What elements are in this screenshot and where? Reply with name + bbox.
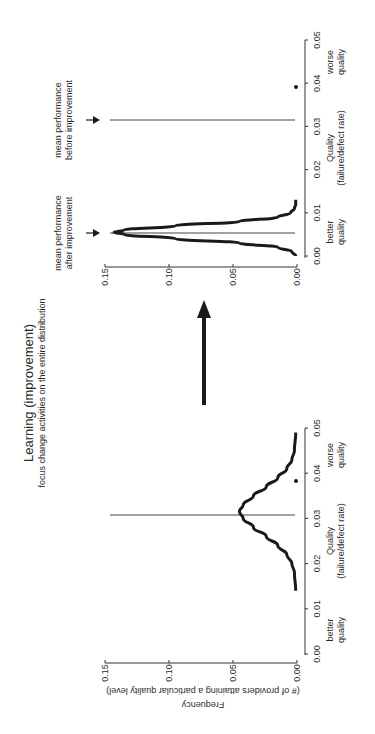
figure-subtitle: focus change activities on the entire di…	[37, 298, 47, 487]
quality-tick-label: 0.04	[312, 74, 322, 92]
frequency-tick-label: 0.00	[292, 268, 302, 286]
arrow-before-icon	[86, 116, 100, 124]
frequency-tick-label: 0.05	[228, 664, 238, 682]
frequency-tick-label: 0.10	[164, 268, 174, 286]
frequency-tick-label: 0.15	[100, 664, 110, 682]
arrow-after-icon	[86, 229, 100, 237]
frequency-axis-title-1: Frequency	[181, 700, 224, 710]
learning-improvement-figure: Learning (improvement) focus change acti…	[0, 0, 375, 734]
label-mean-before-1: mean performance	[53, 82, 63, 158]
quality-tick-label: 0.04	[312, 464, 322, 482]
label-mean-after-1: mean performance	[53, 195, 63, 271]
quality-tick-label: 0.02	[312, 555, 322, 573]
frequency-tick-label: 0.15	[100, 268, 110, 286]
quality-axis-title-1: Quality	[325, 133, 335, 162]
better-quality-label-2: quality	[336, 218, 346, 245]
worse-quality-label-1: worse	[325, 443, 335, 468]
chart-after-improvement: 0.000.010.020.030.040.05 0.000.050.100.1…	[53, 31, 346, 286]
quality-axis-title-2: (failure/defect rate)	[336, 503, 346, 579]
worse-quality-label-1: worse	[325, 50, 335, 75]
quality-tick-label: 0.05	[312, 419, 322, 437]
label-mean-before-2: before improvement	[64, 79, 74, 160]
before-distribution-curve	[239, 433, 295, 591]
figure-title: Learning (improvement)	[21, 324, 36, 462]
quality-tick-label: 0.03	[312, 118, 322, 136]
quality-tick-label: 0.01	[312, 204, 322, 222]
outlier-point	[294, 85, 298, 89]
improvement-arrow-icon	[197, 300, 211, 405]
quality-tick-label: 0.00	[312, 247, 322, 265]
worse-quality-label-2: quality	[336, 48, 346, 75]
quality-tick-label: 0.02	[312, 161, 322, 179]
better-quality-label-1: better	[325, 618, 335, 641]
quality-axis-title-1: Quality	[325, 526, 335, 555]
quality-tick-label: 0.00	[312, 645, 322, 663]
quality-tick-label: 0.05	[312, 31, 322, 49]
quality-tick-label: 0.01	[312, 600, 322, 618]
quality-axis-title-2: (failure/defect rate)	[336, 110, 346, 186]
label-mean-after-2: after improvement	[64, 196, 74, 269]
quality-tick-label: 0.03	[312, 510, 322, 528]
better-quality-label-1: better	[325, 220, 335, 243]
outlier-point	[294, 479, 298, 483]
frequency-tick-label: 0.00	[292, 664, 302, 682]
frequency-axis-title-2: (# of providers attaining a particular q…	[106, 686, 300, 696]
frequency-tick-label: 0.05	[228, 268, 238, 286]
after-distribution-curve	[114, 200, 296, 256]
frequency-tick-label: 0.10	[164, 664, 174, 682]
chart-before-improvement: 0.000.010.020.030.040.05 0.000.050.100.1…	[100, 419, 346, 710]
better-quality-label-2: quality	[336, 616, 346, 643]
worse-quality-label-2: quality	[336, 441, 346, 468]
